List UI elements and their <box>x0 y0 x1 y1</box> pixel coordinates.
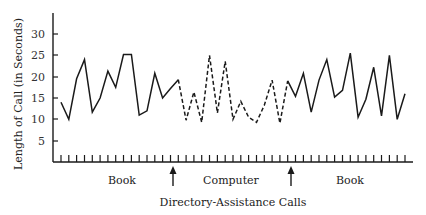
segment-label-book-2: Book <box>336 174 364 187</box>
segment-label-computer: Computer <box>203 174 260 187</box>
arrow-up-icon <box>288 166 295 186</box>
series-computer <box>178 55 287 123</box>
y-tick-5: 5 <box>38 135 45 148</box>
arrow-up-icon <box>170 166 177 186</box>
y-tick-10: 10 <box>31 113 45 126</box>
x-ticks <box>61 155 405 162</box>
y-tick-30: 30 <box>31 28 45 41</box>
segment-label-book-1: Book <box>108 174 136 187</box>
y-tick-20: 20 <box>31 71 45 84</box>
series-book-1 <box>61 55 178 120</box>
data-series <box>61 53 405 123</box>
y-tick-labels: 30 25 20 15 10 5 <box>31 28 45 148</box>
y-axis-label: Length of Call (in Seconds) <box>12 18 25 170</box>
y-ticks <box>53 34 58 141</box>
x-axis-label: Directory-Assistance Calls <box>160 196 307 209</box>
y-tick-25: 25 <box>31 49 45 62</box>
y-tick-15: 15 <box>31 92 45 105</box>
series-book-2 <box>288 53 405 119</box>
axes <box>53 13 413 162</box>
line-chart: Length of Call (in Seconds) 30 25 20 15 … <box>0 0 426 215</box>
